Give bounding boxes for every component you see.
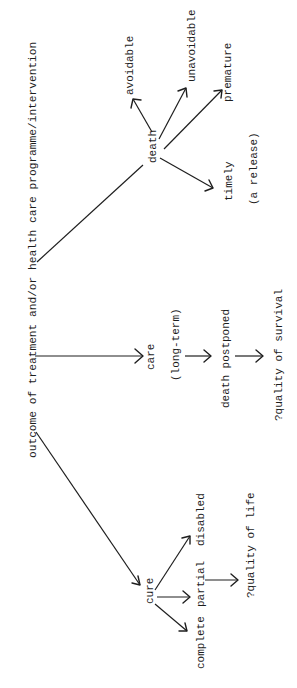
diagram-canvas: outcome of treatment and/or health care … [0, 0, 297, 688]
node-death-postponed: death postponed [220, 309, 232, 408]
node-partial: partial [195, 561, 207, 607]
node-death: death [147, 130, 159, 163]
node-cure: cure [144, 578, 156, 604]
arrow-death-to-avoidable-icon [131, 99, 152, 132]
note-long-term: (long-term) [170, 308, 182, 381]
arrow-outcome-to-care-icon [35, 349, 143, 363]
node-quality-of-life: ?quality of life [245, 492, 257, 598]
node-avoidable: avoidable [124, 36, 136, 95]
arrow-death-to-premature-icon [164, 90, 222, 149]
arrow-cure-to-partial-icon [157, 591, 190, 603]
node-timely: timely [223, 161, 235, 201]
node-disabled: disabled [195, 493, 207, 546]
arrow-death-postponed-to-quality-of-survival-icon [235, 350, 263, 362]
arrow-death-to-timely-icon [160, 158, 213, 191]
arrow-care-to-death-postponed-icon [185, 350, 211, 362]
arrow-death-to-unavoidable-icon [159, 88, 187, 139]
arrow-outcome-to-cure-icon [36, 432, 140, 585]
arrow-partial-to-quality-of-life-icon [205, 574, 238, 586]
node-quality-of-survival: ?quality of survival [273, 289, 285, 421]
node-unavoidable: unavoidable [186, 9, 198, 82]
arrow-cure-to-disabled-icon [155, 536, 190, 590]
node-complete: complete [195, 616, 207, 669]
node-premature: premature [222, 43, 234, 102]
diagram-title: outcome of treatment and/or health care … [27, 42, 39, 458]
node-care: care [145, 344, 157, 370]
arrow-cure-to-complete-icon [155, 604, 187, 631]
note-a-release: (a release) [248, 132, 260, 205]
edge-outcome-to-death [37, 165, 143, 262]
